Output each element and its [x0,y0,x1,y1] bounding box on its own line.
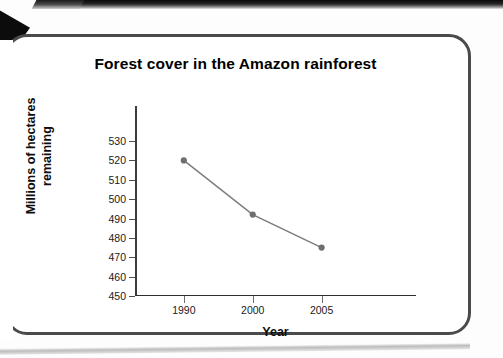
chart-container: Forest cover in the Amazon rainforest Mi… [0,34,471,335]
page-edge-shadow-bottom [0,343,470,355]
series-marker-2005 [319,245,325,251]
plot-area: Millions of hectares remaining 530520510… [0,34,471,335]
scanned-page-background: Forest cover in the Amazon rainforest Mi… [0,0,503,358]
data-series-layer [0,34,471,335]
series-marker-2000 [250,212,256,218]
series-marker-1990 [181,157,187,163]
x-axis-title: Year [135,325,416,339]
page-edge-shadow-top [78,0,503,9]
series-markers [181,157,325,250]
series-line-forest-cover [184,160,322,247]
